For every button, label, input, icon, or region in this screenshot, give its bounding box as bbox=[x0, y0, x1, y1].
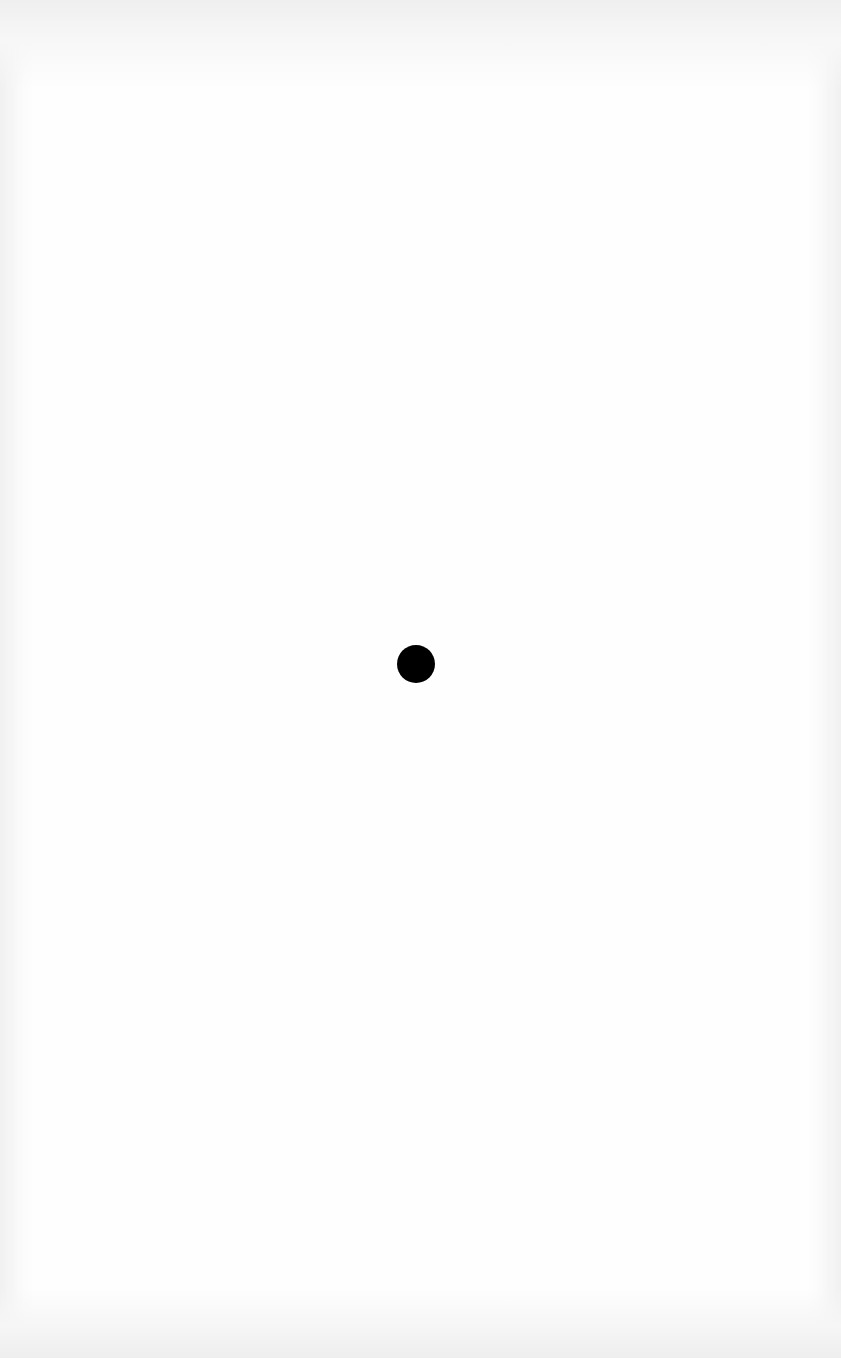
black-dot bbox=[397, 645, 435, 683]
blank-page bbox=[0, 0, 841, 1358]
